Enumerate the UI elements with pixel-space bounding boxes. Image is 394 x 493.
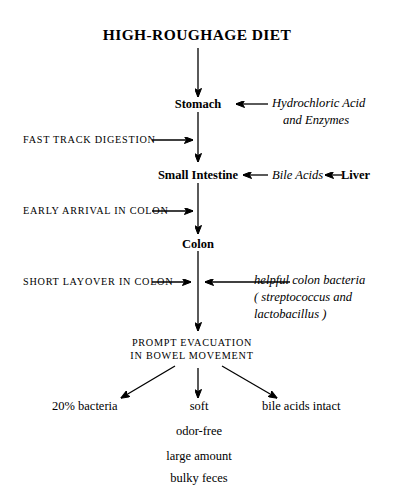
annotation-hydrochloric-acid-line2: and Enzymes [283,113,349,128]
node-prompt-evacuation-line1: PROMPT EVACUATION [132,337,252,349]
annotation-bile-acids: Bile Acids [272,168,323,183]
outcome-center-soft: soft [190,399,209,414]
arrow-evacuation-to-left-outcome [121,366,175,398]
annotation-hydrochloric-acid-line1: Hydrochloric Acid [272,96,365,111]
node-small-intestine: Small Intestine [158,168,238,183]
annotation-colon-bacteria-line1: helpful colon bacteria [254,273,365,288]
arrow-evacuation-to-right-outcome [222,366,277,398]
annotation-short-layover-in-colon: SHORT LAYOVER IN COLON [23,276,173,288]
node-colon: Colon [182,237,214,252]
node-prompt-evacuation-line2: IN BOWEL MOVEMENT [130,350,253,362]
node-stomach: Stomach [175,97,222,112]
annotation-colon-bacteria-line3: lactobacillus ) [254,307,326,322]
outcome-left-bacteria: 20% bacteria [52,399,118,414]
annotation-colon-bacteria-line2: ( streptococcus and [254,290,352,305]
node-liver: Liver [341,168,370,183]
outcome-center-large-amount: large amount [166,449,231,464]
outcome-center-odor-free: odor-free [176,424,222,439]
annotation-early-arrival-in-colon: EARLY ARRIVAL IN COLON [23,205,169,217]
annotation-fast-track-digestion: FAST TRACK DIGESTION [23,134,156,146]
outcome-right-bile-acids: bile acids intact [262,399,340,414]
page-title: HIGH-ROUGHAGE DIET [0,26,394,44]
outcome-center-bulky-feces: bulky feces [170,471,227,486]
